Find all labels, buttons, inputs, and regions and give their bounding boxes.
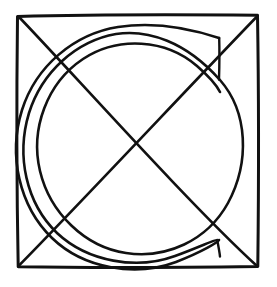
geometric-line-drawing — [0, 0, 277, 287]
drawing-canvas — [0, 0, 277, 287]
